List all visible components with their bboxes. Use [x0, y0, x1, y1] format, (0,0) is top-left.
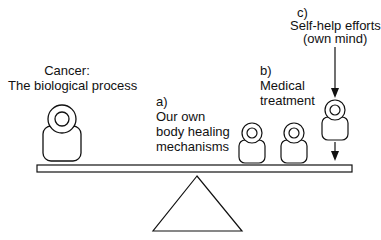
self-help-weight-icon	[322, 100, 348, 140]
arrow-down-icon-top	[331, 47, 339, 98]
label-a-line3: mechanisms	[156, 139, 229, 154]
cancer-label: Cancer:	[22, 63, 112, 78]
medical-weight-icon-2	[281, 123, 307, 163]
label-a-tag: a)	[156, 94, 168, 109]
label-c-line2: (own mind)	[303, 31, 367, 46]
arrow-down-icon-bottom	[331, 142, 339, 161]
cancer-label-line1: Cancer:	[22, 63, 112, 78]
label-b-line1: Medical	[260, 78, 305, 93]
label-b-tag: b)	[260, 63, 272, 78]
balance-beam	[37, 165, 352, 172]
cancer-label-line2: The biological process	[8, 78, 137, 93]
label-a-line1: Our own	[156, 109, 205, 124]
cancer-weight-icon	[43, 105, 81, 161]
label-b-line2: treatment	[260, 93, 315, 108]
medical-weight-icon-1	[239, 123, 265, 163]
fulcrum-triangle	[153, 176, 242, 231]
label-a-line2: body healing	[156, 124, 230, 139]
